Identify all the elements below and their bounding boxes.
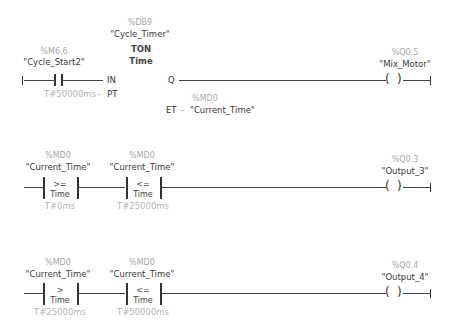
contact-address: %M6.6 (24, 47, 84, 56)
coil-address: %Q0.5 (385, 48, 425, 57)
wire (24, 80, 54, 81)
cmp1-bar-left[interactable] (43, 177, 45, 199)
timer-type[interactable]: TON (126, 44, 156, 54)
contact-symbol: "Cycle_Start2" (16, 57, 92, 67)
coil-left-icon[interactable]: ( (385, 73, 390, 85)
rail-tick (22, 76, 23, 85)
coil-left-icon[interactable]: ( (385, 286, 390, 298)
cmp1-bar-right[interactable] (77, 177, 79, 199)
wire (161, 187, 386, 188)
et-dash: – (180, 105, 184, 115)
et-address: %MD0 (185, 94, 225, 103)
wire (403, 187, 430, 188)
wire (24, 187, 43, 188)
wire (161, 293, 386, 294)
cmp1-value[interactable]: T#0ms (42, 201, 78, 211)
coil-left-icon[interactable]: ( (385, 180, 390, 192)
cmp2-operator: <= (129, 286, 157, 295)
timer-symbol: "Cycle_Timer" (104, 29, 176, 39)
wire (179, 80, 386, 81)
cmp2-address: %MD0 (122, 258, 162, 267)
cmp2-value[interactable]: T#25000ms (116, 201, 170, 211)
cmp1-address: %MD0 (38, 151, 78, 160)
cmp1-value[interactable]: T#25000ms (33, 307, 87, 317)
coil-symbol: "Mix_Motor" (366, 59, 444, 69)
cmp2-symbol: "Current_Time" (104, 162, 180, 172)
cmp2-type: Time (129, 190, 157, 199)
timer-data-type[interactable]: Time (126, 56, 156, 66)
wire (403, 293, 430, 294)
cmp1-address: %MD0 (38, 258, 78, 267)
pin-in: IN (107, 75, 116, 85)
rail-tick (430, 76, 431, 85)
contact-bar-left[interactable] (54, 74, 56, 86)
cmp1-operator: >= (46, 180, 74, 189)
rail-tick (430, 289, 431, 298)
cmp2-value[interactable]: T#50000ms (116, 307, 170, 317)
pt-value[interactable]: T#50000ms (44, 89, 96, 99)
cmp2-type: Time (129, 296, 157, 305)
rail-tick (430, 183, 431, 192)
wire (78, 187, 125, 188)
wire (78, 293, 125, 294)
pt-dash: – (97, 89, 101, 99)
wire (24, 293, 43, 294)
cmp1-type: Time (46, 190, 74, 199)
cmp1-symbol: "Current_Time" (20, 162, 96, 172)
et-symbol[interactable]: "Current_Time" (190, 105, 255, 115)
coil-address: %Q0.3 (385, 155, 425, 164)
coil-right-icon[interactable]: ) (397, 180, 402, 192)
wire (62, 80, 103, 81)
cmp1-bar-right[interactable] (77, 283, 79, 305)
pin-q: Q (168, 75, 175, 85)
cmp2-bar-right[interactable] (160, 283, 162, 305)
cmp2-bar-left[interactable] (126, 177, 128, 199)
cmp2-symbol: "Current_Time" (104, 269, 180, 279)
pin-et: ET (166, 105, 177, 115)
coil-symbol: "Output_3" (366, 166, 444, 176)
coil-right-icon[interactable]: ) (397, 73, 402, 85)
cmp2-operator: <= (129, 180, 157, 189)
cmp2-bar-right[interactable] (160, 177, 162, 199)
coil-right-icon[interactable]: ) (397, 286, 402, 298)
timer-address: %DB9 (112, 18, 168, 27)
coil-address: %Q0.4 (385, 261, 425, 270)
pin-pt: PT (107, 89, 117, 99)
cmp2-bar-left[interactable] (126, 283, 128, 305)
cmp1-type: Time (46, 296, 74, 305)
cmp1-bar-left[interactable] (43, 283, 45, 305)
cmp1-symbol: "Current_Time" (20, 269, 96, 279)
wire (403, 80, 430, 81)
coil-symbol: "Output_4" (366, 272, 444, 282)
cmp1-operator: > (46, 286, 74, 295)
cmp2-address: %MD0 (122, 151, 162, 160)
